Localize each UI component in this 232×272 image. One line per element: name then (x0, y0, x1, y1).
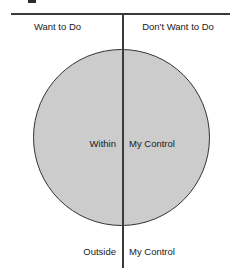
label-outside: Outside (30, 247, 116, 257)
horizontal-divider-line (11, 13, 230, 15)
cropped-title-glyph (28, 0, 36, 3)
label-within: Within (30, 139, 116, 149)
vertical-divider-line (122, 13, 124, 268)
label-want-to-do: Want to Do (0, 22, 115, 32)
label-dont-want-to-do: Don't Want to Do (130, 22, 226, 32)
label-my-control-outside: My Control (129, 247, 175, 257)
circle-of-control-diagram: Want to Do Don't Want to Do Within My Co… (0, 0, 232, 272)
label-my-control-within: My Control (129, 139, 175, 149)
